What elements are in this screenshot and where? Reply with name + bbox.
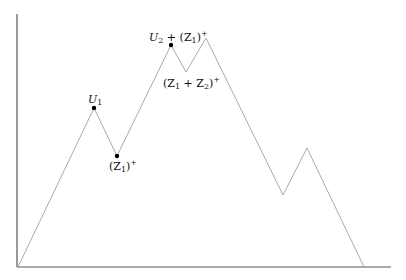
label-u1: U1	[88, 93, 102, 107]
label-z1-plus-z2-plus: (Z1 + Z2)+	[163, 75, 220, 91]
label-u2-plus-z1-plus: U2 + (Z1)+	[149, 29, 208, 45]
point-z1-plus	[115, 154, 119, 158]
label-z1-plus: (Z1)+	[109, 158, 137, 174]
point-u1	[92, 106, 96, 110]
excursion-path	[18, 38, 364, 267]
excursion-diagram: U1 (Z1)+ U2 + (Z1)+ (Z1 + Z2)+	[0, 0, 406, 280]
